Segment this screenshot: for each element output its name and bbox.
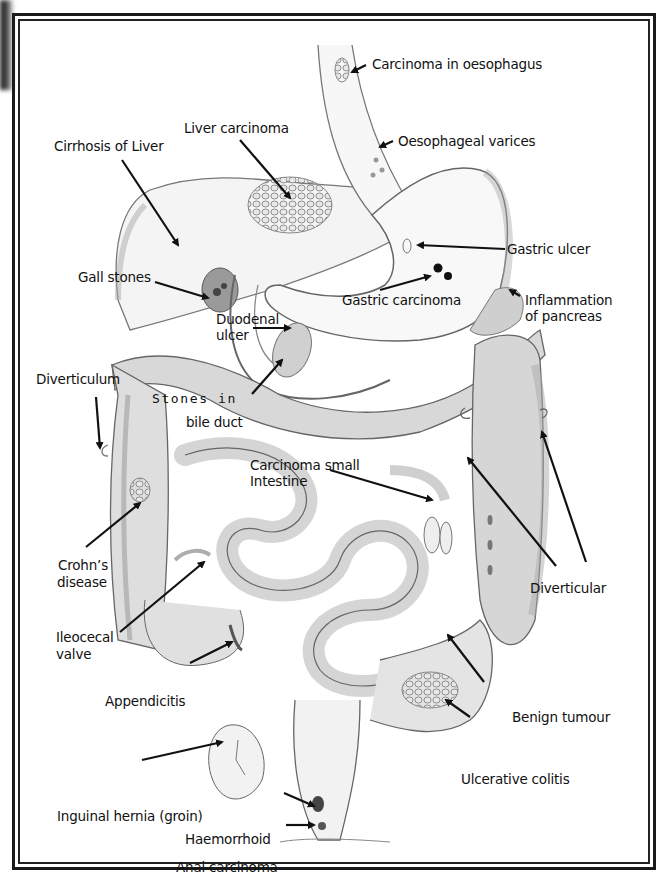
label-cirrhosis-of-liver: Cirrhosis of Liver bbox=[54, 139, 164, 154]
label-appendicitis: Appendicitis bbox=[105, 694, 185, 709]
label-gall-stones: Gall stones bbox=[78, 270, 151, 285]
label-benign-tumour: Benign tumour bbox=[512, 710, 610, 725]
label-stones-in-bile-duct-line1: Stones in bbox=[152, 392, 237, 407]
label-carcinoma-small-intestine-line1: Carcinoma small bbox=[250, 458, 360, 473]
label-stones-in-bile-duct-line2: bile duct bbox=[186, 415, 243, 430]
label-crohns-disease-line2: disease bbox=[57, 575, 107, 590]
label-duodenal-ulcer-line1: Duodenal bbox=[216, 312, 279, 327]
label-inguinal-hernia: Inguinal hernia (groin) bbox=[57, 809, 203, 824]
descending-colon bbox=[461, 335, 547, 645]
label-anal-carcinoma: Anal carcinoma bbox=[176, 860, 278, 875]
label-gastric-carcinoma: Gastric carcinoma bbox=[342, 293, 461, 308]
label-inflammation-of-pancreas-line2: of pancreas bbox=[525, 309, 602, 324]
label-crohns-disease-line1: Crohn’s bbox=[58, 558, 108, 573]
label-duodenal-ulcer-line2: ulcer bbox=[216, 328, 249, 343]
label-diverticular: Diverticular bbox=[530, 581, 606, 596]
label-haemorrhoid: Haemorrhoid bbox=[185, 832, 271, 847]
label-ileocecal-valve-line2: valve bbox=[56, 647, 91, 662]
label-liver-carcinoma: Liver carcinoma bbox=[184, 121, 289, 136]
liver-carcinoma-nodules bbox=[248, 177, 332, 233]
label-ileocecal-valve-line1: Ileocecal bbox=[56, 630, 114, 645]
label-ulcerative-colitis: Ulcerative colitis bbox=[461, 772, 569, 787]
label-gastric-ulcer: Gastric ulcer bbox=[507, 242, 590, 257]
sigmoid-colon bbox=[370, 620, 492, 732]
label-carcinoma-in-oesophagus: Carcinoma in oesophagus bbox=[372, 57, 542, 72]
label-oesophageal-varices: Oesophageal varices bbox=[398, 134, 535, 149]
label-carcinoma-small-intestine-line2: Intestine bbox=[250, 474, 307, 489]
label-inflammation-of-pancreas-line1: Inflammation bbox=[525, 293, 612, 308]
label-diverticulum: Diverticulum bbox=[36, 372, 120, 387]
digestive-system-illustration bbox=[0, 0, 671, 884]
inguinal-hernia bbox=[209, 725, 264, 799]
